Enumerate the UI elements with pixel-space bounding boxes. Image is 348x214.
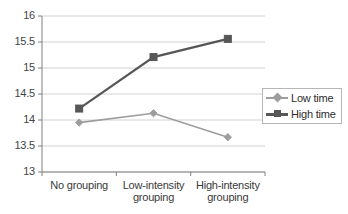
data-point — [150, 54, 157, 61]
y-tick-label: 16 — [0, 9, 35, 21]
line-chart: 1313.51414.51515.516 No groupingLow-inte… — [0, 0, 348, 214]
x-category-label: Low-intensity grouping — [116, 179, 190, 203]
y-tick-label: 15 — [0, 61, 35, 73]
legend-label-low-time: Low time — [288, 92, 333, 104]
data-point — [76, 105, 83, 112]
x-category-label: No grouping — [42, 179, 116, 191]
legend-marker-low-time — [266, 91, 288, 105]
y-tick-label: 14.5 — [0, 87, 35, 99]
data-series-layer — [76, 35, 232, 140]
y-tick-label: 15.5 — [0, 35, 35, 47]
legend-label-high-time: High time — [288, 108, 336, 120]
legend-item-high-time: High time — [266, 106, 336, 122]
series-line — [79, 39, 228, 109]
y-axis-ticks — [38, 16, 42, 172]
y-tick-label: 14 — [0, 113, 35, 125]
y-tick-label: 13.5 — [0, 139, 35, 151]
chart-legend: Low time High time — [262, 88, 342, 124]
x-axis-ticks — [42, 172, 265, 176]
legend-item-low-time: Low time — [266, 90, 333, 106]
legend-marker-high-time — [266, 107, 288, 121]
data-point — [150, 110, 157, 117]
series-low-time — [76, 110, 232, 141]
x-category-label: High-intensity grouping — [191, 179, 265, 203]
data-point — [224, 35, 231, 42]
data-point — [224, 134, 231, 141]
series-high-time — [76, 35, 232, 112]
y-tick-label: 13 — [0, 165, 35, 177]
